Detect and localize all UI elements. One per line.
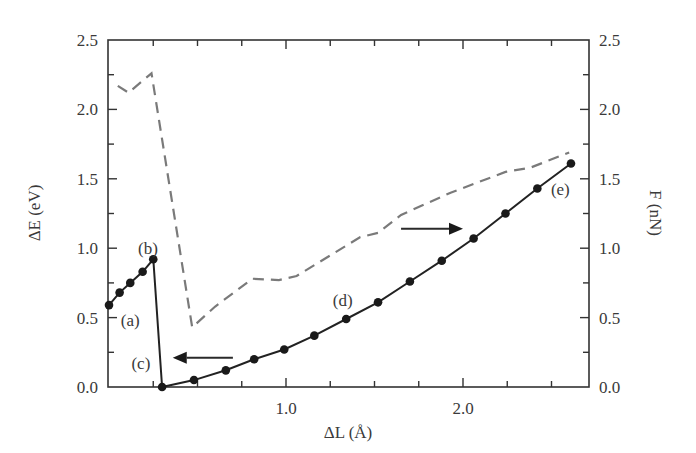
y-tick-label-left: 0.5 (77, 309, 98, 328)
data-point-marker (158, 383, 167, 392)
x-tick-label: 2.0 (452, 399, 473, 418)
y-tick-label-right: 1.5 (599, 170, 620, 189)
arrow-left-icon (173, 352, 233, 364)
y-tick-label-left: 2.0 (77, 100, 98, 119)
point-annotation: (e) (551, 180, 570, 199)
data-point-marker (310, 331, 319, 340)
data-point-marker (250, 355, 259, 364)
y-tick-label-right: 1.0 (599, 239, 620, 258)
plot-border (108, 40, 589, 387)
data-point-marker (126, 279, 135, 288)
data-point-marker (533, 184, 542, 193)
data-point-marker (138, 267, 147, 276)
annotation-layer: (a)(b)(c)(d)(e) (121, 180, 570, 374)
chart: 1.02.00.00.51.01.52.02.50.00.51.01.52.02… (0, 0, 696, 453)
data-point-marker (342, 315, 351, 324)
data-point-marker (437, 256, 446, 265)
data-point-marker (105, 301, 114, 310)
y-axis-title-right: F (nN) (646, 190, 665, 236)
axis-tick-labels: 1.02.00.00.51.01.52.02.50.00.51.01.52.02… (77, 31, 621, 418)
y-axis-title-left: ΔE (eV) (25, 185, 44, 242)
y-tick-label-left: 1.0 (77, 239, 98, 258)
series-force-dashed (118, 73, 569, 327)
plot-frame (108, 40, 589, 387)
point-annotation: (b) (138, 239, 158, 258)
arrow-layer (173, 223, 463, 364)
series-energy-solid (105, 159, 576, 391)
data-point-marker (222, 366, 231, 375)
y-tick-label-right: 2.5 (599, 31, 620, 50)
y-tick-label-right: 0.5 (599, 309, 620, 328)
data-point-marker (280, 345, 289, 354)
point-annotation: (c) (131, 354, 150, 373)
point-annotation: (d) (333, 291, 353, 310)
data-point-marker (406, 277, 415, 286)
y-tick-label-left: 0.0 (77, 378, 98, 397)
x-tick-label: 1.0 (275, 399, 296, 418)
point-annotation: (a) (121, 311, 140, 330)
data-point-marker (469, 234, 478, 243)
y-tick-label-right: 0.0 (599, 378, 620, 397)
y-tick-label-left: 2.5 (77, 31, 98, 50)
series-layer (105, 73, 576, 391)
data-point-marker (115, 288, 124, 297)
arrow-right-icon (401, 223, 463, 235)
data-point-marker (374, 298, 383, 307)
y-tick-label-left: 1.5 (77, 170, 98, 189)
x-axis-title: ΔL (Å) (324, 423, 373, 442)
data-point-marker (567, 159, 576, 168)
axis-ticks (108, 40, 589, 387)
data-point-marker (501, 209, 510, 218)
data-point-marker (190, 376, 199, 385)
y-tick-label-right: 2.0 (599, 100, 620, 119)
